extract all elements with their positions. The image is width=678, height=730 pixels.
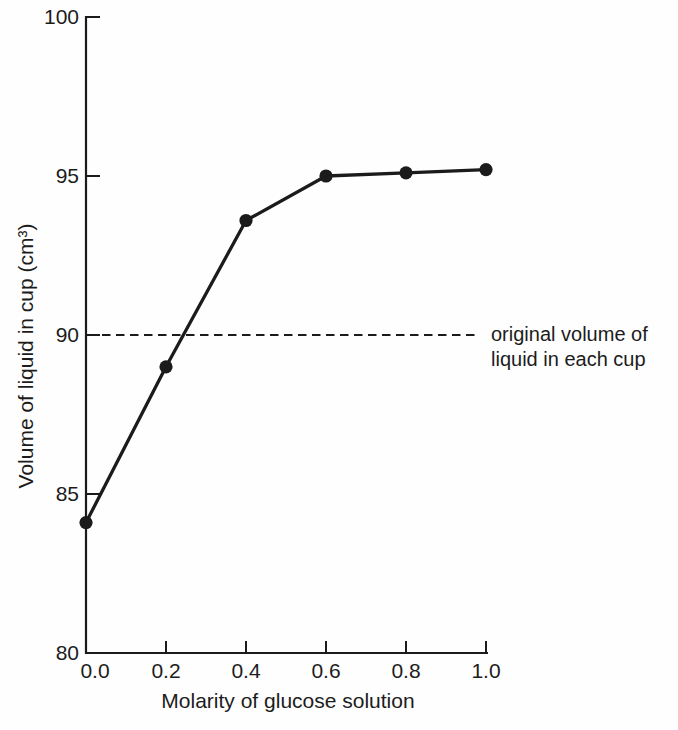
- y-tick-label: 95: [56, 164, 79, 187]
- data-point: [239, 214, 252, 227]
- series-line: [86, 170, 486, 523]
- data-point: [479, 163, 492, 176]
- x-tick-label: 0.4: [231, 659, 261, 682]
- x-tick-label: 0.2: [151, 659, 180, 682]
- y-tick-label: 100: [44, 5, 79, 28]
- data-series: [79, 163, 492, 529]
- x-tick-label: 0.0: [80, 659, 109, 682]
- data-point: [319, 169, 332, 182]
- reference-label-line1: original volume of: [491, 323, 648, 345]
- y-axis-title: Volume of liquid in cup (cm³): [14, 224, 37, 489]
- x-tick-label: 1.0: [471, 659, 500, 682]
- y-tick-label: 85: [56, 482, 79, 505]
- x-axis-title: Molarity of glucose solution: [161, 689, 414, 712]
- y-tick-label: 90: [56, 323, 79, 346]
- data-point: [79, 516, 92, 529]
- x-tick-label: 0.6: [311, 659, 340, 682]
- reference-label-line2: liquid in each cup: [491, 348, 646, 370]
- x-axis-ticks: 0.00.20.40.60.81.0: [80, 641, 500, 682]
- line-chart: 80859095100 0.00.20.40.60.81.0 Volume of…: [0, 0, 678, 730]
- data-point: [399, 166, 412, 179]
- y-tick-label: 80: [56, 641, 79, 664]
- y-axis-ticks: 80859095100: [44, 5, 100, 664]
- data-point: [159, 360, 172, 373]
- chart-figure: 80859095100 0.00.20.40.60.81.0 Volume of…: [0, 0, 678, 730]
- x-tick-label: 0.8: [391, 659, 420, 682]
